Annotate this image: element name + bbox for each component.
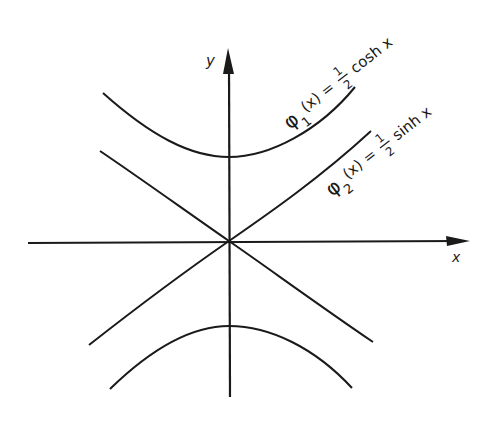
x-axis-label: x bbox=[451, 249, 461, 265]
phi2-label: φ 2 (x) = 1 2 sinh x bbox=[317, 98, 442, 206]
x-axis: x bbox=[28, 236, 470, 265]
y-axis: y bbox=[205, 48, 234, 397]
phi1-rest: cosh x bbox=[347, 33, 396, 77]
y-axis-arrow-icon bbox=[223, 48, 234, 74]
phi1-label: φ 1 (x) = 1 2 cosh x bbox=[275, 28, 403, 138]
phi2-frac-den: 2 bbox=[383, 144, 398, 160]
hyperbolic-functions-diagram: x y φ 1 (x) = 1 2 cosh x φ 2 (x) = 1 2 s… bbox=[0, 0, 495, 421]
y-axis-label: y bbox=[205, 52, 216, 70]
x-axis-arrow-icon bbox=[446, 236, 470, 246]
phi2-rest: sinh x bbox=[389, 102, 435, 144]
phi2-arg: (x) = bbox=[339, 145, 380, 183]
